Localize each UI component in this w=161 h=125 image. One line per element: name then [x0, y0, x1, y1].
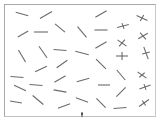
stimulus-canvas: [0, 0, 161, 125]
cross-line: [142, 101, 145, 106]
distractor-line: [76, 98, 88, 102]
distractor-line: [33, 96, 44, 105]
distractor-line: [114, 107, 127, 108]
distractor-line: [14, 85, 26, 91]
distractor-line: [58, 104, 70, 108]
distractor-line: [35, 66, 47, 72]
distractor-line: [30, 84, 43, 85]
distractor-line: [75, 51, 89, 55]
distractor-line: [19, 50, 26, 62]
distractor-line: [78, 27, 87, 38]
distractor-line: [40, 12, 52, 19]
distractor-line: [16, 12, 29, 15]
distractor-line: [54, 76, 65, 83]
distractor-line: [96, 98, 105, 107]
distractor-line: [11, 76, 24, 77]
distractor-line: [54, 49, 67, 50]
distractor-line: [96, 59, 106, 69]
distractor-line: [57, 60, 68, 67]
cross-line: [140, 33, 146, 40]
distractor-line: [54, 90, 67, 92]
distractor-line: [39, 46, 47, 57]
distractor-line: [117, 70, 125, 80]
distractor-line: [10, 101, 22, 103]
fixation-marker-head: [81, 113, 83, 115]
distractor-line: [55, 24, 65, 32]
distractor-line: [77, 78, 90, 81]
cross-line: [119, 40, 125, 47]
distractor-line: [116, 87, 125, 96]
distractor-line: [18, 31, 28, 37]
distractor-line: [95, 42, 106, 49]
distractor-line: [95, 11, 106, 18]
